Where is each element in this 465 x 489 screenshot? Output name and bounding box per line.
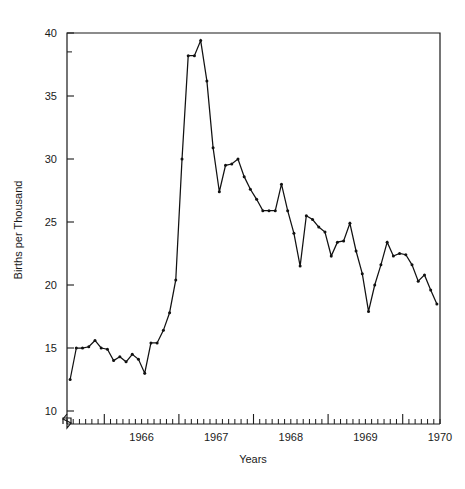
- y-tick-label: 40: [45, 27, 57, 39]
- data-point: [193, 54, 196, 57]
- data-point: [69, 378, 72, 381]
- x-tick-label: 1968: [279, 431, 303, 443]
- data-point: [423, 273, 426, 276]
- x-tick-label: 1969: [353, 431, 377, 443]
- data-point: [398, 252, 401, 255]
- y-axis-title: Births per Thousand: [12, 181, 24, 280]
- y-tick-label: 20: [45, 279, 57, 291]
- x-axis-title: Years: [239, 453, 267, 465]
- data-point: [162, 329, 165, 332]
- data-point: [156, 341, 159, 344]
- data-point: [149, 341, 152, 344]
- data-point: [435, 302, 438, 305]
- data-point: [118, 355, 121, 358]
- data-point: [187, 54, 190, 57]
- data-point: [131, 353, 134, 356]
- data-point: [373, 284, 376, 287]
- data-point: [81, 347, 84, 350]
- data-point: [137, 358, 140, 361]
- y-tick-label: 35: [45, 90, 57, 102]
- data-point: [286, 209, 289, 212]
- series-path: [70, 41, 437, 380]
- y-tick-label: 25: [45, 216, 57, 228]
- data-point: [392, 255, 395, 258]
- data-point: [168, 311, 171, 314]
- data-point: [100, 347, 103, 350]
- chart-canvas: 10152025303540 19661967196819691970 Birt…: [0, 0, 465, 489]
- y-tick-label: 15: [45, 342, 57, 354]
- data-point: [429, 289, 432, 292]
- data-point: [205, 79, 208, 82]
- data-point: [93, 339, 96, 342]
- data-point: [292, 232, 295, 235]
- data-point: [243, 175, 246, 178]
- data-point: [330, 255, 333, 258]
- data-point: [299, 265, 302, 268]
- x-axis-ticks: 19661967196819691970: [67, 414, 452, 443]
- data-point: [274, 209, 277, 212]
- data-point: [255, 198, 258, 201]
- data-point: [386, 241, 389, 244]
- y-tick-label: 30: [45, 153, 57, 165]
- data-point: [367, 310, 370, 313]
- data-point-markers: [69, 39, 439, 381]
- data-point: [174, 278, 177, 281]
- chart-figure: 10152025303540 19661967196819691970 Birt…: [0, 0, 465, 489]
- data-point: [311, 218, 314, 221]
- x-tick-label: 1967: [204, 431, 228, 443]
- data-point: [379, 263, 382, 266]
- x-tick-label: 1966: [129, 431, 153, 443]
- data-point: [417, 280, 420, 283]
- data-point: [268, 209, 271, 212]
- data-point: [125, 360, 128, 363]
- y-axis-ticks: 10152025303540: [45, 27, 74, 417]
- data-point: [181, 158, 184, 161]
- data-point: [261, 209, 264, 212]
- data-series-line: [70, 41, 437, 380]
- data-point: [199, 39, 202, 42]
- data-point: [323, 231, 326, 234]
- data-point: [112, 359, 115, 362]
- data-point: [404, 253, 407, 256]
- data-point: [249, 188, 252, 191]
- data-point: [224, 164, 227, 167]
- data-point: [342, 239, 345, 242]
- data-point: [236, 158, 239, 161]
- data-point: [317, 226, 320, 229]
- data-point: [336, 241, 339, 244]
- data-point: [230, 163, 233, 166]
- y-tick-label: 10: [45, 405, 57, 417]
- data-point: [348, 222, 351, 225]
- data-point: [143, 372, 146, 375]
- x-tick-label: 1970: [428, 431, 452, 443]
- data-point: [218, 190, 221, 193]
- data-point: [87, 345, 90, 348]
- data-point: [75, 347, 78, 350]
- data-point: [280, 183, 283, 186]
- data-point: [305, 214, 308, 217]
- data-point: [355, 249, 358, 252]
- data-point: [106, 348, 109, 351]
- data-point: [361, 272, 364, 275]
- data-point: [212, 146, 215, 149]
- data-point: [411, 263, 414, 266]
- plot-frame: [67, 33, 440, 424]
